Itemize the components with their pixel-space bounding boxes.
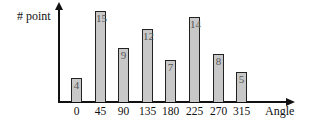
x-tick-label: 315 — [227, 105, 257, 117]
bar-value-label: 9 — [119, 50, 128, 61]
y-axis-label: # point — [17, 10, 51, 22]
x-axis-label: Angle — [265, 105, 294, 117]
bar-value-label: 14 — [190, 19, 199, 30]
y-axis-arrow-icon — [55, 2, 63, 10]
y-axis-line — [58, 8, 60, 103]
bar-value-label: 4 — [72, 80, 81, 91]
bar-value-label: 15 — [96, 13, 105, 24]
bar-value-label: 7 — [166, 62, 175, 73]
bar-value-label: 8 — [214, 56, 223, 67]
bar-0: 4 — [71, 78, 82, 102]
bar-chart: # point Angle 41591271485 04590135180225… — [0, 0, 315, 123]
bar-315: 5 — [236, 72, 247, 102]
bar-90: 9 — [118, 48, 129, 102]
bar-225: 14 — [189, 17, 200, 102]
bar-value-label: 5 — [237, 74, 246, 85]
bar-180: 7 — [165, 60, 176, 102]
bar-value-label: 12 — [143, 31, 152, 42]
bar-135: 12 — [142, 29, 153, 102]
bar-45: 15 — [95, 11, 106, 102]
bar-270: 8 — [213, 54, 224, 102]
